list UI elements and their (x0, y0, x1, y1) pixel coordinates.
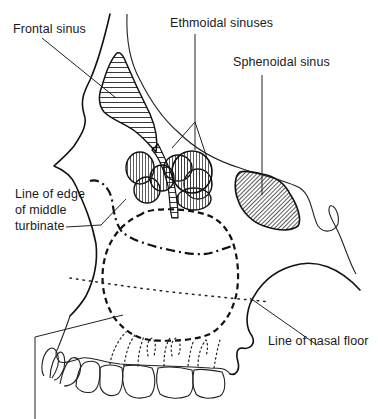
label-sphenoidal-sinus: Sphenoidal sinus (233, 55, 330, 70)
sphenoidal-sinus (235, 171, 299, 230)
label-frontal-sinus: Frontal sinus (13, 22, 86, 37)
frontal-sinus (99, 53, 157, 152)
label-middle-turbinate-line3: turbinate (15, 219, 65, 234)
label-nasal-floor: Line of nasal floor (268, 334, 369, 349)
pterygoid-outline (230, 263, 360, 374)
facial-profile-outline (54, 14, 110, 316)
nasal-floor-line (70, 278, 270, 302)
label-middle-turbinate-line1: Line of edge (15, 187, 85, 202)
cranial-fossa-outline (127, 14, 356, 274)
label-middle-turbinate-line2: of middle (15, 203, 67, 218)
label-ethmoidal-sinuses: Ethmoidal sinuses (170, 16, 273, 31)
teeth (42, 348, 225, 398)
maxillary-sinus-outline (103, 209, 239, 341)
tooth-roots (110, 332, 220, 368)
